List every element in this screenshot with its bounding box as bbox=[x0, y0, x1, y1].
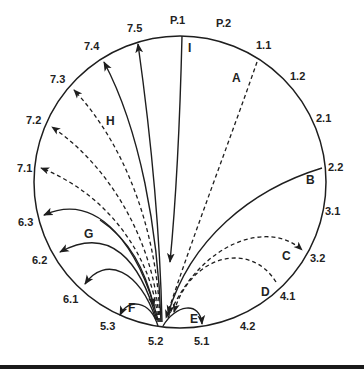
label-3-2: 3.2 bbox=[310, 252, 325, 264]
label-2-2: 2.2 bbox=[328, 161, 343, 173]
label-7-3: 7.3 bbox=[50, 73, 65, 85]
label-p-1: P.1 bbox=[170, 14, 185, 26]
label-7-2: 7.2 bbox=[26, 114, 41, 126]
edge-label-a: A bbox=[232, 71, 241, 85]
edge-labels: A B C D E F G H I bbox=[84, 41, 315, 326]
edge-label-d: D bbox=[261, 285, 270, 299]
edge-b bbox=[168, 168, 322, 314]
label-7-1: 7.1 bbox=[17, 162, 32, 174]
edge-i bbox=[170, 36, 182, 262]
label-7-4: 7.4 bbox=[84, 40, 100, 52]
bottom-border-bar bbox=[0, 365, 364, 369]
edge-to-7-4 bbox=[104, 62, 161, 322]
edge-label-c: C bbox=[282, 249, 291, 263]
label-6-1: 6.1 bbox=[63, 293, 78, 305]
label-6-3: 6.3 bbox=[18, 216, 33, 228]
label-p-2: P.2 bbox=[216, 17, 231, 29]
edge-label-f: F bbox=[128, 301, 135, 315]
edge-label-h: H bbox=[106, 114, 115, 128]
label-1-2: 1.2 bbox=[290, 70, 305, 82]
label-5-1: 5.1 bbox=[194, 335, 209, 347]
label-5-2: 5.2 bbox=[148, 335, 163, 347]
label-1-1: 1.1 bbox=[256, 39, 271, 51]
label-3-1: 3.1 bbox=[325, 205, 340, 217]
edge-label-i: I bbox=[188, 41, 191, 55]
label-4-1: 4.1 bbox=[280, 290, 295, 302]
edge-g bbox=[44, 209, 158, 320]
label-4-2: 4.2 bbox=[240, 320, 255, 332]
edge-label-g: G bbox=[84, 227, 93, 241]
edge-to-7-1 bbox=[41, 168, 158, 322]
edge-label-e: E bbox=[190, 312, 198, 326]
label-5-3: 5.3 bbox=[100, 320, 115, 332]
label-6-2: 6.2 bbox=[32, 254, 47, 266]
circular-flow-diagram: P.1 P.2 1.1 1.2 2.1 2.2 3.1 3.2 4.1 4.2 … bbox=[0, 0, 364, 365]
edge-g-incoming bbox=[100, 220, 154, 306]
edge-to-6-2 bbox=[60, 243, 157, 320]
label-7-5: 7.5 bbox=[127, 22, 142, 34]
label-2-1: 2.1 bbox=[316, 112, 331, 124]
edge-label-b: B bbox=[306, 173, 315, 187]
